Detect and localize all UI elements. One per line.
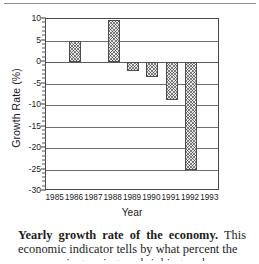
y-tick-label: 5 [15,35,41,45]
y-minor-tick-mark [42,142,46,143]
y-minor-tick-mark [42,91,46,92]
y-minor-tick-mark [42,138,46,139]
y-minor-tick-mark [42,73,46,74]
y-minor-tick-mark [42,35,46,36]
y-minor-tick-mark [42,181,46,182]
y-tick-label: -10 [15,99,41,109]
y-tick-label: -30 [15,185,41,195]
y-minor-tick-mark [42,155,46,156]
bar [127,62,139,71]
y-minor-tick-mark [42,99,46,100]
y-minor-tick-mark [42,185,46,186]
y-tick-label: 10 [15,13,41,23]
y-minor-tick-mark [42,164,46,165]
x-axis-tick-labels: 198519861987198819891990199119921993 [45,193,219,207]
top-divider-rule [4,3,256,4]
y-axis-tick-labels: 1050-5-10-15-20-25-30 [11,18,41,190]
y-tick-mark [41,190,46,191]
y-tick-label: -20 [15,142,41,152]
y-minor-tick-mark [42,22,46,23]
x-tick-label: 1993 [196,193,222,202]
y-tick-mark [41,18,46,19]
y-tick-label: -5 [15,78,41,88]
figure-page: Growth Rate (%) 1050-5-10-15-20-25-30 19… [0,0,259,264]
y-minor-tick-mark [42,43,46,44]
plot-area [45,18,219,190]
bar [108,20,120,62]
bar [146,62,158,77]
grid-line [46,170,218,171]
y-minor-tick-mark [42,121,46,122]
y-minor-tick-mark [42,78,46,79]
y-minor-tick-mark [42,108,46,109]
y-tick-mark [41,125,46,126]
caption-partial-line: economy is growing or shrinking each yea… [18,256,246,261]
y-tick-mark [41,104,46,105]
y-minor-tick-mark [42,172,46,173]
y-tick-mark [41,39,46,40]
bar [185,62,197,170]
bar-chart-figure: Growth Rate (%) 1050-5-10-15-20-25-30 19… [0,10,259,225]
y-minor-tick-mark [42,95,46,96]
y-minor-tick-mark [42,134,46,135]
caption-bold-lead: Yearly growth rate of the economy. [18,228,218,242]
y-minor-tick-mark [42,86,46,87]
y-minor-tick-mark [42,56,46,57]
y-minor-tick-mark [42,112,46,113]
y-minor-tick-mark [42,65,46,66]
bar [69,41,81,63]
x-axis-title: Year [45,207,219,218]
y-tick-mark [41,147,46,148]
y-minor-tick-mark [42,48,46,49]
y-tick-mark [41,61,46,62]
y-minor-tick-mark [42,26,46,27]
y-minor-tick-mark [42,116,46,117]
y-minor-tick-mark [42,69,46,70]
y-tick-label: -25 [15,164,41,174]
y-minor-tick-mark [42,30,46,31]
y-tick-mark [41,82,46,83]
y-minor-tick-mark [42,159,46,160]
y-minor-tick-mark [42,177,46,178]
y-tick-mark [41,168,46,169]
figure-caption: Yearly growth rate of the economy. This … [18,228,246,261]
bar [166,62,178,100]
y-minor-tick-mark [42,151,46,152]
y-tick-label: 0 [15,56,41,66]
y-minor-tick-mark [42,129,46,130]
y-tick-label: -15 [15,121,41,131]
y-minor-tick-mark [42,52,46,53]
